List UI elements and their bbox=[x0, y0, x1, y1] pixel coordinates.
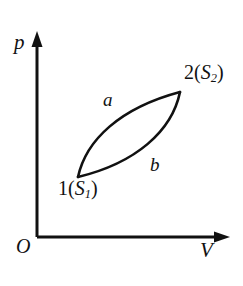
state-1-entropy-subscript: 1 bbox=[85, 187, 91, 201]
volume-axis-label: V bbox=[200, 240, 213, 261]
state-1-close-paren: ) bbox=[91, 177, 98, 199]
pressure-axis-label: p bbox=[14, 32, 25, 53]
state-label-2: 2(S2) bbox=[184, 62, 224, 82]
process-path-b bbox=[78, 92, 180, 177]
state-1-number: 1 bbox=[58, 177, 68, 199]
volume-axis-arrowhead bbox=[214, 232, 230, 243]
state-2-open-paren: ( bbox=[194, 61, 201, 83]
origin-label: O bbox=[16, 236, 30, 256]
pv-diagram-figure: p V O a b 2(S2) 1(S1) bbox=[0, 0, 243, 286]
state-1-entropy-symbol: S bbox=[75, 177, 85, 199]
state-2-entropy-symbol: S bbox=[201, 61, 211, 83]
state-1-open-paren: ( bbox=[68, 177, 75, 199]
pressure-axis-arrowhead bbox=[32, 31, 43, 47]
state-2-close-paren: ) bbox=[217, 61, 224, 83]
process-label-a: a bbox=[103, 90, 113, 109]
state-label-1: 1(S1) bbox=[58, 178, 98, 198]
state-2-entropy-subscript: 2 bbox=[211, 71, 217, 85]
state-2-number: 2 bbox=[184, 61, 194, 83]
process-label-b: b bbox=[150, 155, 160, 174]
process-path-a bbox=[78, 92, 180, 177]
